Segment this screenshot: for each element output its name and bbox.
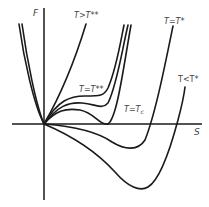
s-axis-label: S [194, 127, 200, 137]
free-energy-diagram: F S T>T** T=T** T=Tc T=T* T<T* [0, 0, 209, 207]
label-t-lt-ts: T<T* [177, 75, 198, 84]
label-t-eq-tss: T=T** [79, 85, 103, 94]
curve-left-inner [22, 24, 44, 124]
curve-t-lt-ts [44, 87, 185, 189]
label-t-eq-tc: T=Tc [124, 105, 144, 115]
f-axis-label: F [33, 8, 39, 18]
curve-left-outer [19, 24, 44, 124]
curve-t-gt-tss [44, 24, 86, 124]
curve-t-eq-tss [44, 25, 124, 124]
label-t-gt-tss: T>T** [74, 11, 98, 20]
label-t-eq-ts: T=T* [164, 17, 184, 26]
